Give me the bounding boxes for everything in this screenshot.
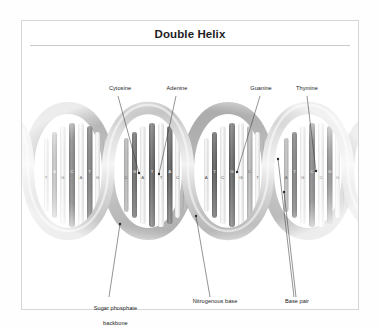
screenshot-root: Double Helix — [0, 0, 380, 329]
page-title: Double Helix — [22, 28, 358, 40]
label-guanine: Guanine — [240, 85, 282, 92]
label-line-2: backbone — [103, 320, 128, 326]
label-cytosine: Cytosine — [98, 85, 142, 92]
helix-body: T A G C A T G C C G A T T A C — [22, 98, 358, 244]
label-line-1: Sugar phosphate — [94, 305, 137, 311]
label-nitrogenous-base: Nitrogenous base — [182, 298, 248, 305]
label-base-pair: Base pair — [276, 298, 318, 305]
double-helix-card: Double Helix — [21, 20, 359, 310]
label-adenine: Adenine — [156, 85, 198, 92]
label-thymine: Thymine — [286, 85, 328, 92]
label-sugar-phosphate-backbone: Sugar phosphate backbone — [72, 298, 146, 329]
dna-double-helix-figure: T A G C A T G C C G A T T A C — [22, 46, 358, 309]
